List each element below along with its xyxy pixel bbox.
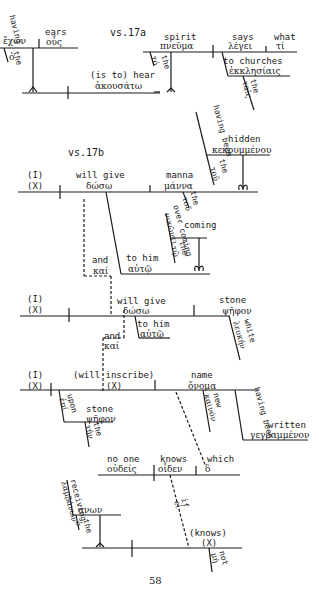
c4-no-one-label: no one (107, 454, 140, 464)
will-give-greek: δώσω (86, 181, 112, 191)
c4-knows-label: knows (160, 454, 187, 464)
having-greek: ἔχων (3, 36, 26, 46)
to-him-greek: αὐτῷ (128, 264, 152, 274)
page-number: 58 (149, 575, 162, 586)
c3-subject-i-label: (I) (27, 370, 43, 380)
c3-inscribe-x: (X) (106, 381, 122, 391)
c2-stone-label: stone (219, 295, 246, 305)
c4-receiving-stem: άνων (78, 505, 102, 515)
c3-stone-label: stone (86, 404, 113, 414)
churches-greek: ἐκκλησίαις (229, 66, 281, 76)
verse-17b-label: vs.17b (68, 148, 104, 158)
c2-stone-greek: ψῆφον (222, 306, 252, 316)
c3-written-greek: γεγραμμένον (250, 430, 310, 440)
c2-will-give-greek: δώσω (123, 306, 149, 316)
c4-no-one-greek: οὐδείς (107, 464, 137, 474)
and-label: and (92, 255, 108, 265)
c3-inscribe-label: (will inscribe) (73, 370, 154, 380)
hidden-greek: κεκρυμμένου (212, 145, 271, 155)
c2-subject-i-label: (I) (27, 294, 43, 304)
c4-knows2-x: (X) (201, 538, 217, 548)
c2-to-him-label: to him (137, 319, 170, 329)
c3-name-label: name (191, 370, 213, 380)
churches-label: to churches (223, 56, 283, 66)
c2-and-greek: καί (104, 341, 119, 351)
manna-label: manna (166, 170, 193, 180)
c2-subject-x-label: (X) (27, 305, 43, 315)
manna-greek: μάννα (164, 181, 193, 191)
hear-label: (is to) hear (90, 70, 155, 80)
ears-label: ears (45, 27, 67, 37)
c2-will-give-label: will give (117, 296, 166, 306)
c3-subject-x-label: (X) (27, 381, 43, 391)
subject-x-label: (X) (27, 181, 43, 191)
hidden-label: hidden (228, 134, 261, 144)
spirit-greek: πνεῦμα (160, 41, 193, 51)
coming-label: coming (184, 220, 217, 230)
c3-written-label: written (268, 420, 306, 430)
the-greek: ὁ (9, 52, 14, 62)
to-him-label: to him (126, 253, 159, 263)
c3-name-greek: ὄνομα (188, 381, 216, 391)
subject-i-label: (I) (27, 170, 43, 180)
c2-to-him-greek: αὐτῷ (140, 329, 164, 339)
says-greek: λέγει (228, 41, 252, 51)
c4-which-label: which (207, 454, 234, 464)
c4-knows2-label: (knows) (189, 528, 227, 538)
will-give-label: will give (76, 170, 125, 180)
what-greek: τί (276, 41, 285, 51)
c4-which-greek: ὃ (205, 464, 210, 474)
hear-greek: ἀκουσάτω (95, 81, 142, 91)
c2-and-label: and (104, 331, 120, 341)
verse-17a-label: vs.17a (110, 28, 146, 38)
ears-greek: οὖς (46, 37, 62, 47)
c4-knows-greek: οἶδεν (158, 464, 183, 474)
and-greek: καί (93, 266, 108, 276)
